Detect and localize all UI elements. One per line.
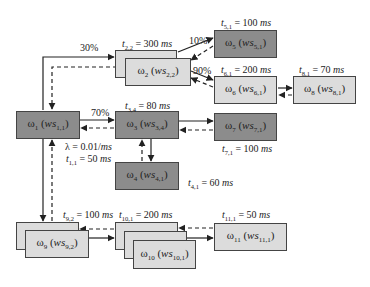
prob-w2-w5: 10% xyxy=(189,35,207,46)
node-w8-label: ω8 (ws8,1) xyxy=(304,82,345,97)
node-w10-label: ω10 (ws10,1) xyxy=(140,247,188,262)
edge-w5-w2-return xyxy=(191,46,213,60)
node-w6-label: ω6 (ws6,1) xyxy=(225,82,266,97)
time-t61: t6,1 = 200 ms xyxy=(221,64,271,77)
prob-w2-w6: 90% xyxy=(193,65,211,76)
node-w8[interactable]: ω8 (ws8,1) xyxy=(293,76,356,104)
time-t81: t8,1 = 70 ms xyxy=(299,64,344,77)
edge-w1-w2 xyxy=(43,57,114,110)
time-t34: t3,4 = 80 ms xyxy=(125,100,170,113)
prob-w1-w2: 30% xyxy=(80,42,98,53)
node-w1-label: ω1 (ws1,1) xyxy=(27,117,68,132)
node-w5-label: ω5 (ws5,1) xyxy=(225,36,266,51)
node-w11[interactable]: ω11 (ws11,1) xyxy=(214,223,287,251)
edge-w2-w1-return xyxy=(52,67,124,109)
lambda-label: λ = 0.01/ms xyxy=(65,141,112,152)
node-w9[interactable]: ω9 (ws9,2) xyxy=(25,230,89,258)
node-w9-label: ω9 (ws9,2) xyxy=(36,236,77,251)
time-t71: t7,1 = 100 ms xyxy=(222,143,272,156)
time-t41: t4,1 = 60 ms xyxy=(188,177,233,190)
time-t101: t10,1 = 200 ms xyxy=(119,209,172,222)
node-w5[interactable]: ω5 (ws5,1) xyxy=(214,30,277,58)
node-w7[interactable]: ω7 (ws7,1) xyxy=(214,113,277,141)
node-w2[interactable]: ω2 (ws2,2) xyxy=(125,58,191,86)
node-w7-label: ω7 (ws7,1) xyxy=(225,119,266,134)
node-w2-label: ω2 (ws2,2) xyxy=(137,64,178,79)
node-w4[interactable]: ω4 (ws4,1) xyxy=(115,162,179,190)
time-t11: t1,1 = 50 ms xyxy=(66,153,111,166)
node-w10[interactable]: ω10 (ws10,1) xyxy=(133,240,196,269)
node-w4-label: ω4 (ws4,1) xyxy=(126,168,167,183)
time-t22: t2,2 = 300 ms xyxy=(122,38,172,51)
time-t92: t9,2 = 100 ms xyxy=(63,209,113,222)
edge-w6-w2-return xyxy=(191,78,213,87)
node-w3[interactable]: ω3 (ws3,4) xyxy=(115,111,179,139)
node-w1[interactable]: ω1 (ws1,1) xyxy=(16,111,80,139)
node-w3-label: ω3 (ws3,4) xyxy=(126,117,167,132)
time-t111: t11,1 = 50 ms xyxy=(222,209,270,222)
time-t51: t5,1 = 100 ms xyxy=(221,17,271,30)
node-w11-label: ω11 (ws11,1) xyxy=(227,229,275,244)
prob-w1-w3: 70% xyxy=(91,107,109,118)
node-w6[interactable]: ω6 (ws6,1) xyxy=(214,76,277,104)
